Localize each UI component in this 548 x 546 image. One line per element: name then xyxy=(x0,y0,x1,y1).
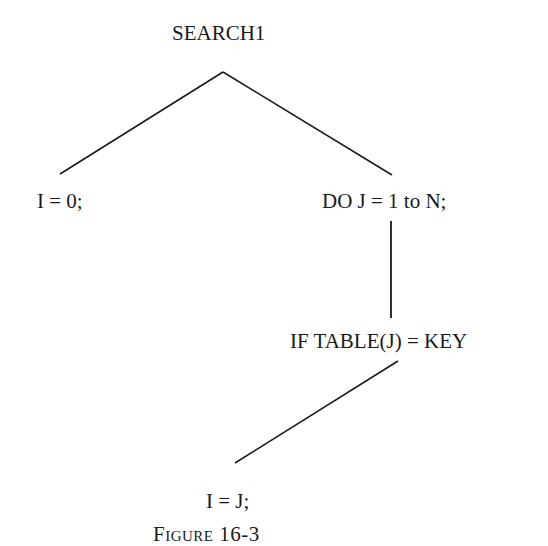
node-do-loop: DO J = 1 to N; xyxy=(322,191,446,212)
edge-root-init xyxy=(60,72,223,174)
node-init-i: I = 0; xyxy=(37,191,83,212)
tree-edges xyxy=(0,0,548,546)
figure-caption: Figure 16-3 xyxy=(153,524,260,545)
node-assign-i-j: I = J; xyxy=(206,491,249,512)
node-search1: SEARCH1 xyxy=(172,23,265,44)
edge-root-loop xyxy=(223,72,392,175)
edge-cond-assign xyxy=(235,361,398,463)
node-if-condition: IF TABLE(J) = KEY xyxy=(290,331,467,352)
